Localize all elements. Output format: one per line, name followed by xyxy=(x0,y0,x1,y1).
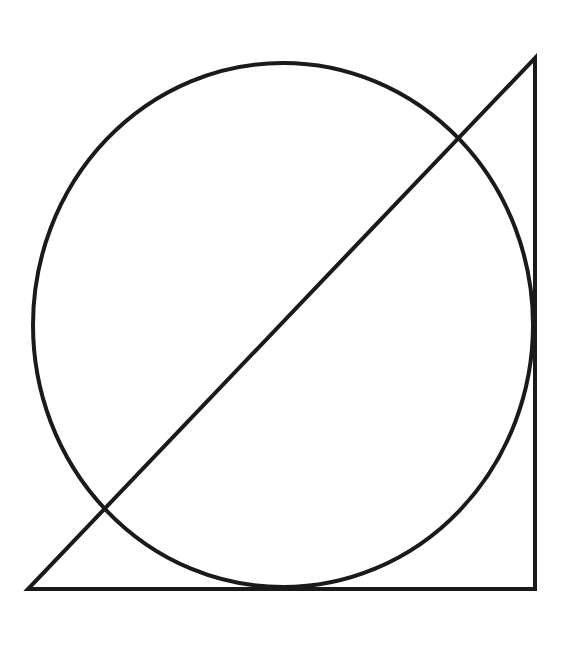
figure-canvas xyxy=(0,0,579,670)
geometric-figure xyxy=(0,0,579,670)
